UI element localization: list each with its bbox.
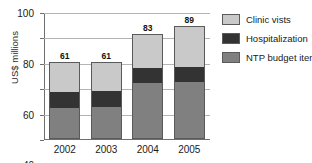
bar-segment[interactable] xyxy=(50,108,79,138)
legend-item[interactable]: NTP budget items xyxy=(222,51,312,63)
bar-segment[interactable] xyxy=(133,83,162,138)
y-axis-tick: 20 xyxy=(40,115,44,116)
y-axis-tick: 40 xyxy=(40,89,44,90)
bar-total-label: 61 xyxy=(50,51,79,61)
bar-total-label: 83 xyxy=(133,23,162,33)
bar-segment[interactable] xyxy=(175,27,204,67)
bar-segment[interactable] xyxy=(175,67,204,82)
chart-legend: Clinic vistsHospitalizationNTP budget it… xyxy=(222,13,312,70)
y-axis-tick: 100 xyxy=(40,13,44,14)
legend-swatch xyxy=(222,33,240,44)
bar-segment[interactable] xyxy=(50,92,79,108)
bar-segment[interactable] xyxy=(133,68,162,83)
y-axis-tick-label: 100 xyxy=(17,8,34,19)
bar-segment[interactable] xyxy=(133,35,162,69)
stacked-bar[interactable]: 89 xyxy=(174,26,205,139)
bar-segment[interactable] xyxy=(92,63,121,91)
x-axis-tick-label: 2002 xyxy=(49,144,80,155)
x-axis-tick-label: 2003 xyxy=(91,144,122,155)
y-axis-title: US$ millions xyxy=(9,22,20,94)
y-axis-tick-label: 80 xyxy=(23,58,34,69)
bar-segment[interactable] xyxy=(92,91,121,107)
legend-item[interactable]: Clinic vists xyxy=(222,13,312,25)
stacked-bar-chart: US$ millions 020406080100 20026120036120… xyxy=(0,0,312,163)
bar-group[interactable]: 200589 xyxy=(174,12,205,139)
bar-group[interactable]: 200261 xyxy=(49,12,80,139)
y-axis-tick: 0 xyxy=(40,140,44,141)
x-axis-tick-label: 2004 xyxy=(132,144,163,155)
bar-segment[interactable] xyxy=(50,63,79,93)
stacked-bar[interactable]: 61 xyxy=(49,62,80,139)
bar-segment[interactable] xyxy=(92,107,121,138)
legend-label: NTP budget items xyxy=(246,52,312,63)
bar-group[interactable]: 200361 xyxy=(91,12,122,139)
y-axis-line xyxy=(44,13,45,140)
legend-label: Hospitalization xyxy=(246,33,308,44)
stacked-bar[interactable]: 61 xyxy=(91,62,122,139)
y-axis-tick: 60 xyxy=(40,64,44,65)
legend-swatch xyxy=(222,14,240,25)
legend-label: Clinic vists xyxy=(246,14,291,25)
y-axis-tick-label: 60 xyxy=(23,109,34,120)
stacked-bar[interactable]: 83 xyxy=(132,34,163,139)
x-axis-line xyxy=(44,139,210,140)
bar-segment[interactable] xyxy=(175,82,204,138)
y-axis-tick: 80 xyxy=(40,38,44,39)
bar-group[interactable]: 200483 xyxy=(132,12,163,139)
legend-swatch xyxy=(222,52,240,63)
plot-area: 020406080100 200261200361200483200589 xyxy=(44,13,210,140)
x-axis-tick-label: 2005 xyxy=(174,144,205,155)
legend-item[interactable]: Hospitalization xyxy=(222,32,312,44)
y-axis-tick-label: 40 xyxy=(23,160,34,163)
bar-total-label: 89 xyxy=(175,15,204,25)
bar-total-label: 61 xyxy=(92,51,121,61)
